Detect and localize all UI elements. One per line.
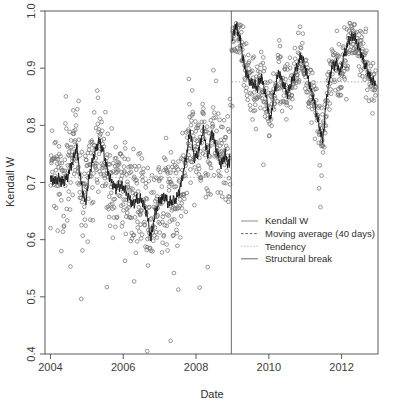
x-axis-tick-label: 2004 — [38, 361, 62, 373]
y-axis-tick-label: 0.5 — [25, 289, 37, 304]
y-axis-tick-label: 0.8 — [25, 118, 37, 133]
kendall-w-scatter-chart: 200420062008201020120.40.50.60.70.80.91.… — [0, 0, 394, 408]
y-axis-tick-label: 0.4 — [25, 346, 37, 361]
legend-label-4: Structural break — [265, 253, 332, 264]
legend-label-3: Tendency — [265, 241, 306, 252]
chart-figure: 200420062008201020120.40.50.60.70.80.91.… — [0, 0, 394, 408]
x-axis-tick-label: 2012 — [329, 361, 353, 373]
legend-label-2: Moving average (40 days) — [265, 228, 375, 239]
y-axis-tick-label: 0.6 — [25, 232, 37, 247]
x-axis-tick-label: 2008 — [184, 361, 208, 373]
y-axis-tick-label: 1.0 — [25, 3, 37, 18]
y-axis-title: Kendall W — [4, 156, 16, 207]
x-axis-tick-label: 2010 — [257, 361, 281, 373]
y-axis-tick-label: 0.9 — [25, 61, 37, 76]
x-axis-tick-label: 2006 — [111, 361, 135, 373]
legend-label-1: Kendall W — [265, 215, 308, 226]
y-axis-tick-label: 0.7 — [25, 175, 37, 190]
x-axis-title: Date — [200, 388, 223, 400]
